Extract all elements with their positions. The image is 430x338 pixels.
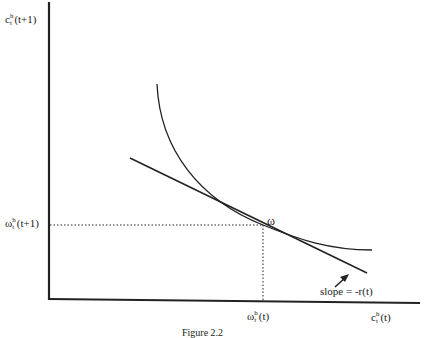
x-axis [48,299,420,303]
endowment-point-label: ω [267,215,275,227]
endowment-x-label: ωht(t) [247,310,269,324]
indifference-curve [157,84,372,250]
slope-label: slope = -r(t) [320,286,373,297]
endowment-y-label: ωht(t+1) [5,217,39,231]
y-axis-label: cht(t+1) [5,13,36,27]
x-axis-label: cht(t) [371,311,391,325]
budget-line [130,158,367,273]
figure-caption: Figure 2.2 [182,328,223,338]
